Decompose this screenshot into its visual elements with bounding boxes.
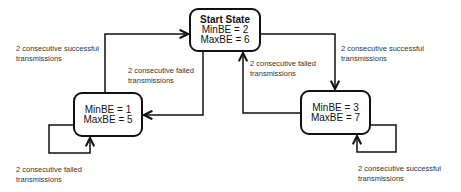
label-start-to-high: 2 consecutive successful transmissions bbox=[341, 44, 424, 64]
state-start-maxbe: MaxBE = 6 bbox=[200, 35, 249, 45]
state-low: MinBE = 1 MaxBE = 5 bbox=[73, 92, 143, 137]
state-low-minbe: MinBE = 1 bbox=[85, 105, 131, 115]
label-start-to-low: 2 consecutive failed transmissions bbox=[128, 66, 194, 86]
state-high-maxbe: MaxBE = 7 bbox=[311, 113, 360, 123]
label-low-to-start: 2 consecutive successful transmissions bbox=[16, 44, 99, 64]
label-high-to-start: 2 consecutive failed transmissions bbox=[250, 59, 316, 79]
label-low-self: 2 consecutive failed transmissions bbox=[16, 165, 82, 185]
state-start: Start State MinBE = 2 MaxBE = 6 bbox=[189, 8, 261, 52]
state-high: MinBE = 3 MaxBE = 7 bbox=[300, 90, 371, 135]
state-high-minbe: MinBE = 3 bbox=[312, 103, 358, 113]
state-low-maxbe: MaxBE = 5 bbox=[83, 115, 132, 125]
label-high-self: 2 consecutive successful transmissions bbox=[358, 164, 441, 184]
